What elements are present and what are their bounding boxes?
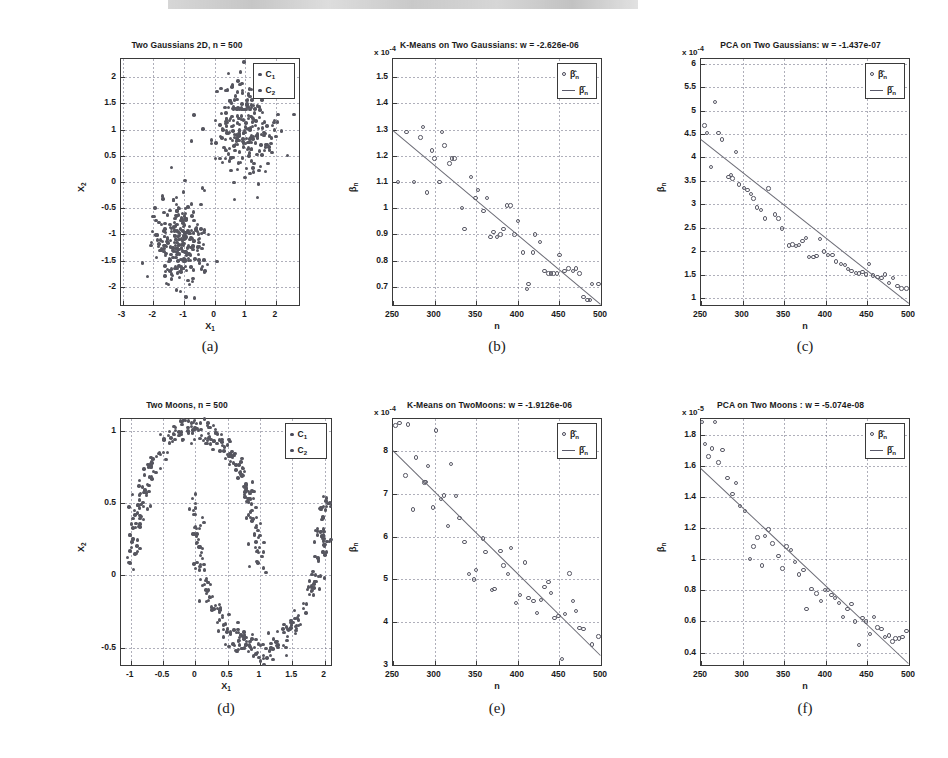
legend-entry-1: C2 bbox=[258, 85, 275, 96]
scatter-point bbox=[853, 619, 857, 623]
tick-mark-y bbox=[393, 208, 397, 209]
xtick-label: -1 bbox=[179, 309, 187, 319]
scatter-point bbox=[233, 107, 236, 110]
scatter-point bbox=[269, 654, 272, 657]
gridline-horizontal bbox=[121, 261, 299, 262]
scatter-point bbox=[533, 232, 537, 236]
scatter-point bbox=[254, 638, 257, 641]
scatter-point bbox=[476, 188, 480, 192]
ytick-label: 7 bbox=[358, 488, 388, 498]
scatter-point bbox=[198, 527, 201, 530]
ytick-label: 6 bbox=[666, 58, 696, 68]
panel-c: PCA on Two Gaussians: w = -1.437e-07x 10… bbox=[658, 40, 923, 305]
scatter-point bbox=[245, 500, 248, 503]
xtick-label: 250 bbox=[693, 669, 707, 679]
ytick-label: 1 bbox=[86, 124, 116, 134]
scatter-point bbox=[521, 250, 525, 254]
exponent-prefix: x 10 bbox=[682, 408, 698, 417]
ytick-label: 0.5 bbox=[86, 497, 116, 507]
gridline-horizontal bbox=[121, 287, 299, 288]
scatter-point bbox=[241, 156, 244, 159]
gridline-horizontal bbox=[701, 134, 909, 135]
scatter-point bbox=[776, 554, 780, 558]
ytick-label: 4 bbox=[358, 616, 388, 626]
scatter-point bbox=[149, 504, 152, 507]
scatter-point bbox=[181, 229, 184, 232]
scatter-point bbox=[245, 486, 248, 489]
scatter-point bbox=[241, 466, 244, 469]
scatter-point bbox=[138, 517, 141, 520]
scatter-point bbox=[542, 585, 546, 589]
scatter-point bbox=[549, 591, 553, 595]
scatter-point bbox=[248, 565, 251, 568]
scatter-point bbox=[271, 658, 274, 661]
regression-line bbox=[700, 139, 909, 304]
scatter-point bbox=[238, 123, 241, 126]
scatter-point bbox=[202, 563, 205, 566]
scatter-point bbox=[262, 550, 265, 553]
scatter-point bbox=[186, 426, 189, 429]
xtick-label: 450 bbox=[551, 309, 565, 319]
scatter-point bbox=[168, 430, 171, 433]
scatter-point bbox=[189, 253, 192, 256]
ytick-label: 1 bbox=[86, 425, 116, 435]
scatter-point bbox=[166, 241, 169, 244]
regression-line bbox=[392, 450, 601, 656]
scatter-point bbox=[266, 162, 269, 165]
scatter-point bbox=[232, 628, 235, 631]
tick-mark-y bbox=[121, 575, 125, 576]
scatter-point bbox=[166, 236, 169, 239]
scatter-point bbox=[201, 584, 204, 587]
tick-mark-x bbox=[131, 661, 132, 665]
scatter-point bbox=[571, 599, 575, 603]
scatter-point bbox=[700, 420, 704, 424]
scatter-point bbox=[245, 516, 248, 519]
scatter-point bbox=[184, 218, 187, 221]
scatter-point bbox=[197, 241, 200, 244]
scatter-point bbox=[276, 113, 279, 116]
scatter-point bbox=[177, 264, 180, 267]
scatter-point bbox=[175, 241, 178, 244]
scatter-point bbox=[131, 517, 134, 520]
scatter-point bbox=[248, 128, 251, 131]
scatter-point bbox=[224, 89, 227, 92]
scatter-point bbox=[285, 654, 288, 657]
gridline-horizontal bbox=[393, 261, 601, 262]
scatter-point bbox=[243, 176, 246, 179]
legend-label: β̂n bbox=[570, 69, 579, 80]
scatter-point bbox=[260, 555, 263, 558]
scatter-point bbox=[230, 450, 233, 453]
scatter-point bbox=[250, 519, 253, 522]
ytick-label: 1.4 bbox=[358, 97, 388, 107]
scatter-point bbox=[293, 609, 296, 612]
tick-mark-x bbox=[559, 661, 560, 665]
scatter-point bbox=[751, 544, 755, 548]
gridline-horizontal bbox=[701, 181, 909, 182]
exponent-power: -4 bbox=[390, 405, 396, 412]
tick-mark-y bbox=[701, 87, 705, 88]
legend-label: β̂n bbox=[878, 69, 887, 80]
legend-a: C1C2 bbox=[253, 63, 295, 99]
xtick-label: 350 bbox=[776, 669, 790, 679]
scatter-point bbox=[899, 286, 903, 290]
scatter-point bbox=[250, 647, 253, 650]
scatter-point bbox=[194, 567, 197, 570]
scatter-point bbox=[177, 430, 180, 433]
panel-title-d: Two Moons, n = 500 bbox=[62, 400, 312, 410]
scatter-point bbox=[254, 540, 257, 543]
tick-mark-y bbox=[121, 208, 125, 209]
ytick-label: -2 bbox=[86, 281, 116, 291]
legend-entry-1: β̄n bbox=[562, 445, 588, 456]
scatter-point bbox=[434, 428, 438, 432]
legend-entry-0: C1 bbox=[290, 429, 307, 440]
scatter-point bbox=[239, 472, 242, 475]
ytick-label: 1 bbox=[666, 292, 696, 302]
scatter-point bbox=[509, 546, 513, 550]
tick-mark-x bbox=[276, 301, 277, 305]
scatter-point bbox=[190, 214, 193, 217]
scatter-point bbox=[169, 258, 172, 261]
scatter-point bbox=[440, 130, 444, 134]
scatter-point bbox=[830, 253, 834, 257]
scatter-point bbox=[154, 471, 157, 474]
gridline-horizontal bbox=[701, 590, 909, 591]
